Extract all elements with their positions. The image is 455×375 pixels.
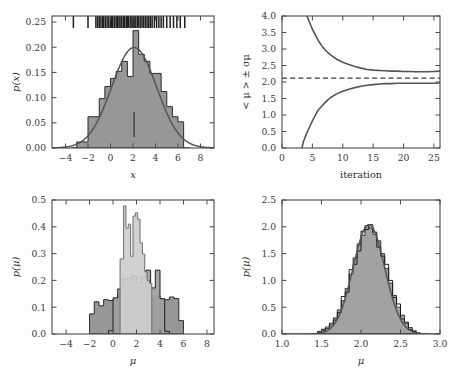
- x-tick-label: 5: [309, 152, 315, 163]
- y-tick-label: 0.10: [26, 92, 47, 103]
- x-tick-label: 4: [153, 152, 159, 163]
- x-tick-label: 6: [181, 338, 187, 349]
- x-tick-label: 0: [279, 152, 285, 163]
- x-tick-label: 15: [367, 152, 379, 163]
- y-axis-label: p(μ): [10, 257, 21, 278]
- x-axis-label: μ: [130, 355, 137, 366]
- x-tick-label: −2: [83, 338, 97, 349]
- x-tick-label: 8: [198, 152, 204, 163]
- y-tick-label: 0.4: [31, 221, 46, 232]
- y-tick-label: 2.5: [261, 60, 276, 71]
- y-tick-label: 0.5: [261, 126, 276, 137]
- y-tick-label: 0.0: [31, 328, 46, 339]
- x-tick-label: 6: [175, 152, 181, 163]
- x-tick-label: −4: [59, 152, 73, 163]
- y-tick-label: 2.5: [261, 194, 276, 205]
- x-tick-label: 1.0: [275, 338, 290, 349]
- panel-bottom-left: −4−2024680.00.10.20.30.40.5μp(μ): [0, 186, 228, 375]
- x-axis-label: iteration: [340, 169, 382, 180]
- y-tick-label: 3.5: [261, 27, 276, 38]
- x-tick-label: 2: [134, 338, 140, 349]
- y-tick-label: 0.00: [26, 142, 47, 153]
- y-tick-label: 0.25: [26, 16, 47, 27]
- y-tick-label: 0.1: [31, 302, 46, 313]
- y-tick-label: 3.0: [261, 43, 276, 54]
- y-tick-label: 0.2: [31, 275, 46, 286]
- x-tick-label: 20: [398, 152, 410, 163]
- x-tick-label: 0: [108, 152, 114, 163]
- x-tick-label: 8: [204, 338, 210, 349]
- plot-area: 05101520250.00.51.01.52.02.53.03.54.0: [261, 0, 440, 163]
- y-tick-label: 1.0: [261, 275, 276, 286]
- y-axis-label: < μ > ± σμ: [240, 54, 251, 109]
- x-axis-label: μ: [358, 355, 365, 366]
- y-tick-label: 4.0: [261, 10, 276, 21]
- y-axis-label: p(x): [10, 72, 21, 92]
- y-tick-label: 2.0: [261, 221, 276, 232]
- x-tick-label: −4: [59, 338, 73, 349]
- figure-canvas: −4−2024680.000.050.100.150.200.25xp(x) 0…: [0, 0, 455, 375]
- plot-area: −4−2024680.000.050.100.150.200.25: [26, 16, 214, 163]
- y-tick-label: 0.05: [26, 117, 47, 128]
- x-tick-label: −2: [81, 152, 95, 163]
- chart-top-right: 05101520250.00.51.01.52.02.53.03.54.0ite…: [228, 0, 455, 186]
- y-tick-label: 0.0: [261, 328, 276, 339]
- x-tick-label: 4: [157, 338, 163, 349]
- chart-top-left: −4−2024680.000.050.100.150.200.25xp(x): [0, 0, 228, 186]
- y-tick-label: 1.5: [261, 248, 276, 259]
- y-tick-label: 0.5: [31, 194, 46, 205]
- plot-area: 1.01.52.02.53.00.00.51.01.52.02.5: [261, 194, 447, 349]
- x-tick-label: 25: [428, 152, 440, 163]
- x-tick-label: 2: [130, 152, 136, 163]
- x-tick-label: 1.5: [314, 338, 329, 349]
- y-tick-label: 0.0: [261, 142, 276, 153]
- axis-frame: [282, 16, 440, 148]
- y-tick-label: 1.0: [261, 109, 276, 120]
- histogram-series-0: [318, 226, 421, 334]
- x-axis-label: x: [130, 169, 136, 180]
- y-tick-label: 1.5: [261, 93, 276, 104]
- panel-bottom-right: 1.01.52.02.53.00.00.51.01.52.02.5μp(μ): [228, 186, 455, 375]
- y-axis-label: p(μ): [240, 257, 251, 278]
- line-series-1: [300, 83, 440, 156]
- line-series-0: [300, 0, 440, 72]
- panel-top-left: −4−2024680.000.050.100.150.200.25xp(x): [0, 0, 228, 186]
- chart-bottom-right: 1.01.52.02.53.00.00.51.01.52.02.5μp(μ): [228, 186, 455, 375]
- y-tick-label: 0.3: [31, 248, 46, 259]
- y-tick-label: 0.15: [26, 67, 47, 78]
- y-tick-label: 2.0: [261, 76, 276, 87]
- x-tick-label: 2.5: [393, 338, 408, 349]
- y-tick-label: 0.5: [261, 302, 276, 313]
- x-tick-label: 2.0: [354, 338, 369, 349]
- plot-area: −4−2024680.00.10.20.30.40.5: [31, 194, 214, 349]
- panel-top-right: 05101520250.00.51.01.52.02.53.03.54.0ite…: [228, 0, 455, 186]
- x-tick-label: 0: [110, 338, 116, 349]
- x-tick-label: 10: [337, 152, 349, 163]
- chart-bottom-left: −4−2024680.00.10.20.30.40.5μp(μ): [0, 186, 228, 375]
- x-tick-label: 3.0: [433, 338, 448, 349]
- y-tick-label: 0.20: [26, 42, 47, 53]
